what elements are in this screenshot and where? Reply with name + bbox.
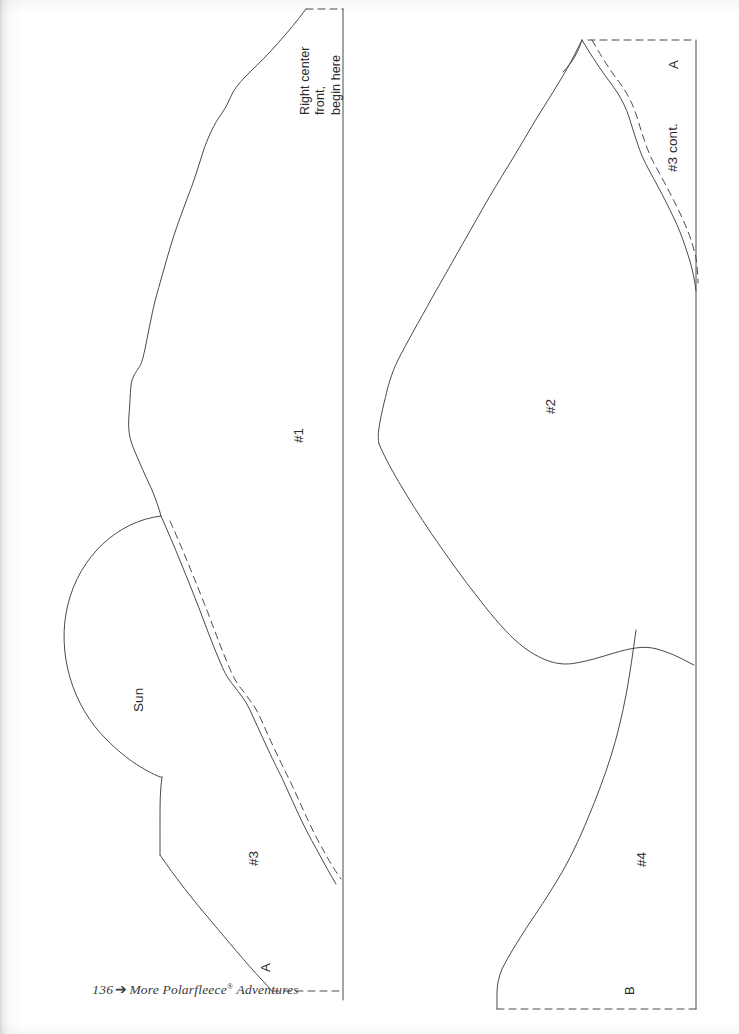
piece-2-cutting-line: [378, 40, 582, 444]
sun-circle-lower: [160, 777, 162, 855]
pattern-drawing: [0, 0, 739, 1034]
book-title-suffix: Adventures: [233, 982, 299, 997]
match-mark-b-right: B: [622, 986, 638, 995]
pattern-artboard: [0, 0, 739, 1034]
note-right-center-front: Right center front, begin here: [298, 46, 344, 115]
piece-3-seam-allowance: [170, 521, 341, 879]
match-mark-a-right: A: [666, 60, 682, 69]
piece-label-2: #2: [543, 399, 559, 414]
arrow-icon: ➔: [113, 982, 129, 997]
piece-2-lower-ridge: [379, 444, 694, 665]
piece-label-4: #4: [634, 852, 650, 867]
scanned-page: Right center front, begin here #1 Sun #3…: [0, 0, 739, 1034]
piece-3-cutting-line: [161, 516, 336, 884]
piece-4-cutting-line: [497, 630, 636, 1009]
piece-label-3-cont: #3 cont.: [665, 123, 681, 172]
page-footer: 136➔More Polarfleece® Adventures: [78, 965, 299, 1014]
sun-circle: [64, 516, 162, 777]
folio-number: 136: [92, 982, 113, 997]
piece-label-3: #3: [246, 851, 262, 866]
piece-label-1: #1: [291, 428, 307, 443]
piece-1-cutting-line: [129, 9, 306, 516]
motif-label-sun: Sun: [131, 688, 147, 712]
book-title: More Polarfleece: [129, 982, 227, 997]
